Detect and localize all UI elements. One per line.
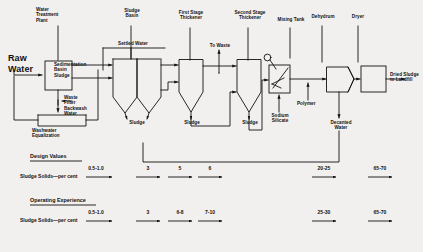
equipment-label-sludge-basin: Sludge Basin	[110, 8, 154, 19]
process-flow-diagram: Water Treatment Plant Sludge Basin First…	[0, 0, 423, 252]
stream-label-settled-water: Settled Water	[104, 41, 162, 46]
inlet-label-raw-water: Raw Water	[8, 53, 48, 74]
operating-value-4: 25-30	[302, 209, 346, 215]
row-label-operating-sludge-solids: Sludge Solids—per cent	[20, 217, 78, 223]
outlet-label-dried-sludge: Dried Sludge to Landfill	[390, 72, 423, 83]
operating-value-0: 0.5-1.0	[74, 209, 118, 215]
stream-label-decanted-water: Decanted Water	[322, 120, 360, 131]
equipment-label-first-stage-thickener: First Stage Thickener	[166, 10, 216, 21]
row-label-design-sludge-solids: Sludge Solids—per cent	[20, 173, 78, 179]
design-value-3: 6	[190, 165, 230, 171]
stream-label-sludge-basin-underflow: Sludge	[118, 120, 156, 125]
stream-label-first-stage-underflow: Sludge	[174, 120, 210, 125]
stream-label-sodium-silicate: Sodium Silicate	[262, 113, 298, 124]
design-value-0: 0.5-1.0	[74, 165, 118, 171]
section-heading-design-values: Design Values	[30, 153, 67, 159]
equipment-label-water-treatment-plant: Water Treatment Plant	[36, 7, 76, 23]
design-value-5: 65-70	[358, 165, 402, 171]
stream-label-to-waste: To Waste	[202, 43, 238, 48]
stream-label-sedimentation-basin-sludge: Sedimentation Basin Sludge	[54, 62, 100, 78]
stream-label-waste-filter-backwash-water: Waste Filter Backwash Water	[64, 95, 98, 117]
operating-value-5: 65-70	[358, 209, 402, 215]
design-value-4: 20-25	[302, 165, 346, 171]
equipment-label-dehydrum: Dehydrum	[304, 14, 342, 19]
operating-value-3: 7-10	[190, 209, 230, 215]
stream-label-polymer: Polymer	[297, 101, 329, 106]
equipment-label-washwater-equalization: Washwater Equalization	[32, 128, 80, 139]
equipment-label-dryer: Dryer	[343, 14, 373, 19]
section-heading-operating-experience: Operating Experience	[30, 197, 86, 203]
